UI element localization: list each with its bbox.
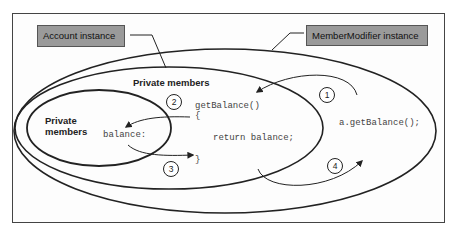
arrow-step-1 bbox=[257, 75, 357, 95]
account-leader-line bbox=[130, 35, 166, 68]
membermodifier-instance-label: MemberModifier instance bbox=[306, 25, 428, 46]
inner-private-members-label: Private members bbox=[45, 115, 87, 137]
code-getbalance-signature: getBalance() bbox=[195, 101, 260, 111]
arrow-step-3 bbox=[128, 145, 193, 155]
step-badge-1: 1 bbox=[319, 87, 335, 103]
code-getbalance-call: a.getBalance(); bbox=[339, 118, 420, 128]
arrow-step-2 bbox=[126, 117, 190, 127]
code-open-brace: { bbox=[195, 111, 200, 121]
code-return-statement: return balance; bbox=[213, 133, 294, 143]
code-balance-field: balance: bbox=[103, 130, 146, 140]
outer-private-members-label: Private members bbox=[133, 77, 210, 88]
inner-private-members-line2: members bbox=[45, 126, 87, 137]
membermodifier-leader-line bbox=[272, 33, 304, 50]
code-close-brace: } bbox=[195, 155, 200, 165]
step-badge-3: 3 bbox=[163, 161, 179, 177]
step-badge-2: 2 bbox=[166, 94, 182, 110]
account-instance-label: Account instance bbox=[37, 25, 125, 47]
step-badge-4: 4 bbox=[327, 158, 343, 174]
inner-private-members-line1: Private bbox=[45, 115, 87, 126]
